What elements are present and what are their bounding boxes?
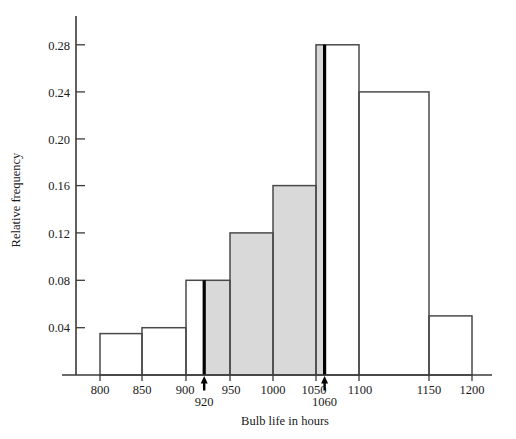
bar-800-850 — [100, 334, 142, 375]
annotation-label-1060: 1060 — [312, 395, 337, 409]
shaded-fill-1000-1050 — [273, 186, 316, 375]
annotation-920: 920 — [195, 376, 214, 409]
x-tick-label-1000: 1000 — [261, 383, 286, 397]
histogram-figure: 0.28 0.24 0.20 0.16 0.12 0.08 0.04 800 8… — [0, 0, 516, 439]
y-tick-label-0.24: 0.24 — [48, 86, 71, 100]
x-tick-label-800: 800 — [91, 383, 110, 397]
shaded-region-group — [204, 45, 324, 375]
x-tick-label-850: 850 — [133, 383, 152, 397]
x-axis-tick-labels: 800 850 900 950 1000 1050 1100 1150 1200 — [91, 383, 485, 397]
x-axis-title: Bulb life in hours — [241, 414, 329, 428]
x-axis-ticks — [100, 375, 472, 381]
annotation-label-920: 920 — [195, 395, 214, 409]
x-tick-label-1100: 1100 — [348, 383, 373, 397]
x-tick-label-950: 950 — [222, 383, 241, 397]
bar-1150-1200 — [429, 316, 472, 375]
y-tick-label-0.16: 0.16 — [48, 179, 70, 193]
y-tick-label-0.28: 0.28 — [48, 39, 70, 53]
bar-1100-1150 — [359, 92, 429, 375]
shaded-fill-950-1000 — [230, 233, 273, 375]
x-tick-label-900: 900 — [176, 383, 195, 397]
histogram-chart: 0.28 0.24 0.20 0.16 0.12 0.08 0.04 800 8… — [0, 0, 516, 439]
y-tick-label-0.12: 0.12 — [48, 227, 70, 241]
x-tick-label-1200: 1200 — [460, 383, 485, 397]
shaded-fill-920-950 — [204, 280, 230, 375]
bar-850-900 — [142, 328, 186, 375]
y-axis-title: Relative frequency — [9, 152, 23, 247]
y-axis-tick-labels: 0.28 0.24 0.20 0.16 0.12 0.08 0.04 — [48, 39, 71, 336]
arrow-up-icon-920 — [201, 376, 208, 391]
y-tick-label-0.08: 0.08 — [48, 274, 70, 288]
y-tick-label-0.20: 0.20 — [48, 133, 70, 147]
y-tick-label-0.04: 0.04 — [48, 321, 71, 335]
x-tick-label-1150: 1150 — [417, 383, 442, 397]
y-axis-ticks — [76, 45, 85, 328]
